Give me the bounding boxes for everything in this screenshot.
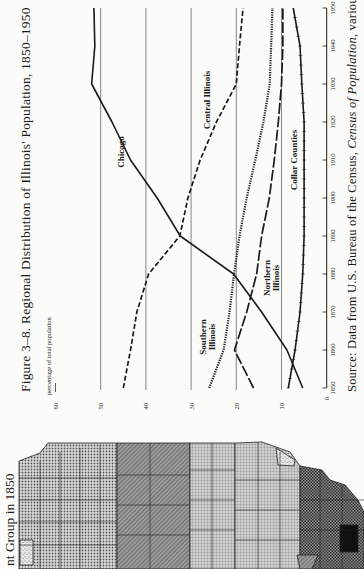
map-counties [19,442,364,569]
book-page: nt Group in 1850 Figure 3–8. Regional Di… [0,0,364,569]
illinois-county-map [0,0,364,569]
